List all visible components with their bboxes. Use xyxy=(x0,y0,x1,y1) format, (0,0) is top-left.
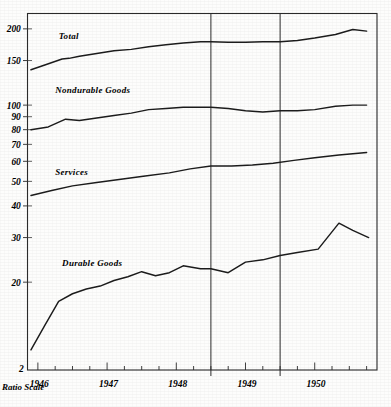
x-axis-year-label: 1948 xyxy=(168,379,187,389)
y-axis-label: 90 xyxy=(11,112,21,122)
series-line-total xyxy=(31,29,367,69)
series-line-durable-goods xyxy=(31,223,369,350)
line-chart-svg: 2030405060708090100150200219461947194819… xyxy=(0,0,391,407)
y-axis-label: 50 xyxy=(11,177,21,187)
y-axis-label: 100 xyxy=(7,101,21,111)
series-label-nondurable-goods: Nondurable Goods xyxy=(54,85,130,95)
chart-container: 2030405060708090100150200219461947194819… xyxy=(0,0,391,407)
plot-frame xyxy=(28,14,378,371)
x-axis-year-label: 1947 xyxy=(99,379,119,389)
y-axis-label: 70 xyxy=(11,140,21,150)
y-axis-label: 80 xyxy=(11,125,21,135)
y-axis-break-marker: 2 xyxy=(18,364,24,374)
y-axis-label: 200 xyxy=(6,24,21,34)
y-axis-label: 40 xyxy=(10,201,21,211)
series-line-nondurable-goods xyxy=(31,105,367,130)
x-axis-year-label: 1950 xyxy=(307,379,326,389)
series-label-total: Total xyxy=(59,31,79,41)
y-axis-label: 30 xyxy=(10,233,21,243)
y-axis-label: 20 xyxy=(10,278,21,288)
y-axis-label: 60 xyxy=(11,157,21,167)
ratio-scale-caption: Ratio Scale xyxy=(1,382,44,392)
series-label-durable-goods: Durable Goods xyxy=(61,258,122,268)
x-axis-year-label: 1949 xyxy=(237,379,256,389)
y-axis-label: 150 xyxy=(7,56,21,66)
series-label-services: Services xyxy=(55,167,88,177)
